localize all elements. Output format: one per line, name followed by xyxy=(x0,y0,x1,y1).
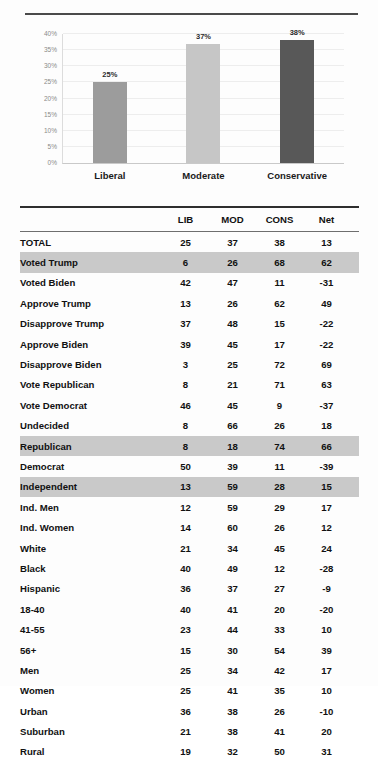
cell-cons: 17 xyxy=(256,334,303,354)
cell-mod: 45 xyxy=(209,395,256,415)
table-row: Vote Republican8217163 xyxy=(20,375,359,395)
cell-mod: 45 xyxy=(209,334,256,354)
cell-lib: 46 xyxy=(162,395,209,415)
cell-cons: 28 xyxy=(256,477,303,497)
cell-lib: 8 xyxy=(162,416,209,436)
cell-spacer xyxy=(350,660,359,680)
cell-cons: 50 xyxy=(256,742,303,759)
column-header-net: Net xyxy=(303,207,350,232)
cell-net: -22 xyxy=(303,314,350,334)
y-axis-tick-label: 30% xyxy=(44,62,57,69)
column-header-lib: LIB xyxy=(162,207,209,232)
cell-cons: 45 xyxy=(256,538,303,558)
cell-spacer xyxy=(350,334,359,354)
row-label: Approve Trump xyxy=(20,293,162,313)
cell-net: 62 xyxy=(303,252,350,272)
cell-net: -28 xyxy=(303,558,350,578)
cell-mod: 38 xyxy=(209,701,256,721)
table-body: TOTAL25373813Voted Trump6266862Voted Bid… xyxy=(20,232,359,759)
table-row: 56+15305439 xyxy=(20,640,359,660)
cell-net: 13 xyxy=(303,232,350,253)
cell-cons: 12 xyxy=(256,558,303,578)
table-row: 18-40404120-20 xyxy=(20,599,359,619)
y-axis-tick-label: 15% xyxy=(44,110,57,117)
column-header-cons: CONS xyxy=(256,207,303,232)
cell-spacer xyxy=(350,701,359,721)
cell-lib: 40 xyxy=(162,599,209,619)
cell-spacer xyxy=(350,619,359,639)
cell-lib: 42 xyxy=(162,273,209,293)
chart-bar: 37% xyxy=(186,44,220,163)
row-label: Ind. Women xyxy=(20,517,162,537)
row-label: 41-55 xyxy=(20,619,162,639)
cell-cons: 33 xyxy=(256,619,303,639)
column-header-label xyxy=(20,207,162,232)
cell-mod: 41 xyxy=(209,681,256,701)
cell-net: 17 xyxy=(303,660,350,680)
table-row: Rural19325031 xyxy=(20,742,359,759)
table-row: Voted Trump6266862 xyxy=(20,252,359,272)
table-row: Ind. Men12592917 xyxy=(20,497,359,517)
cell-mod: 48 xyxy=(209,314,256,334)
table-row: Disapprove Trump374815-22 xyxy=(20,314,359,334)
chart-category-label: Moderate xyxy=(182,170,224,181)
table-row: Independent13592815 xyxy=(20,477,359,497)
cell-mod: 49 xyxy=(209,558,256,578)
cell-lib: 13 xyxy=(162,293,209,313)
cell-net: 10 xyxy=(303,619,350,639)
cell-spacer xyxy=(350,558,359,578)
y-axis-tick-label: 5% xyxy=(48,142,57,149)
cell-net: 39 xyxy=(303,640,350,660)
cell-lib: 13 xyxy=(162,477,209,497)
cell-lib: 19 xyxy=(162,742,209,759)
chart-bar-group: 38%Conservative xyxy=(250,34,344,163)
chart-plot-area: 0%5%10%15%20%25%30%35%40%25%Liberal37%Mo… xyxy=(62,34,344,164)
cell-cons: 74 xyxy=(256,436,303,456)
cell-net: -9 xyxy=(303,579,350,599)
cell-spacer xyxy=(350,517,359,537)
cell-lib: 36 xyxy=(162,701,209,721)
cell-net: 31 xyxy=(303,742,350,759)
cell-net: -20 xyxy=(303,599,350,619)
cell-spacer xyxy=(350,375,359,395)
table-row: TOTAL25373813 xyxy=(20,232,359,253)
cell-net: 18 xyxy=(303,416,350,436)
table-row: Black404912-28 xyxy=(20,558,359,578)
row-label: TOTAL xyxy=(20,232,162,253)
cell-lib: 39 xyxy=(162,334,209,354)
cell-lib: 12 xyxy=(162,497,209,517)
cell-cons: 26 xyxy=(256,701,303,721)
y-axis-tick-label: 20% xyxy=(44,94,57,101)
cell-spacer xyxy=(350,456,359,476)
table-header-row: LIB MOD CONS Net xyxy=(20,207,359,232)
cell-lib: 36 xyxy=(162,579,209,599)
chart-category-label: Liberal xyxy=(94,170,125,181)
cell-mod: 59 xyxy=(209,497,256,517)
row-label: Suburban xyxy=(20,721,162,741)
cell-spacer xyxy=(350,293,359,313)
cell-lib: 25 xyxy=(162,232,209,253)
cell-spacer xyxy=(350,395,359,415)
cell-mod: 30 xyxy=(209,640,256,660)
cell-cons: 27 xyxy=(256,579,303,599)
cell-mod: 26 xyxy=(209,293,256,313)
chart-category-label: Conservative xyxy=(267,170,327,181)
row-label: Women xyxy=(20,681,162,701)
cell-net: 24 xyxy=(303,538,350,558)
cell-spacer xyxy=(350,721,359,741)
cell-spacer xyxy=(350,640,359,660)
cell-mod: 44 xyxy=(209,619,256,639)
row-label: White xyxy=(20,538,162,558)
cell-cons: 42 xyxy=(256,660,303,680)
table-row: Approve Trump13266249 xyxy=(20,293,359,313)
column-header-mod: MOD xyxy=(209,207,256,232)
y-axis-tick-label: 0% xyxy=(48,159,57,166)
cell-mod: 37 xyxy=(209,232,256,253)
cell-spacer xyxy=(350,579,359,599)
cell-lib: 21 xyxy=(162,721,209,741)
row-label: Hispanic xyxy=(20,579,162,599)
cell-cons: 72 xyxy=(256,354,303,374)
cell-net: 66 xyxy=(303,436,350,456)
cell-net: -31 xyxy=(303,273,350,293)
cell-mod: 34 xyxy=(209,660,256,680)
